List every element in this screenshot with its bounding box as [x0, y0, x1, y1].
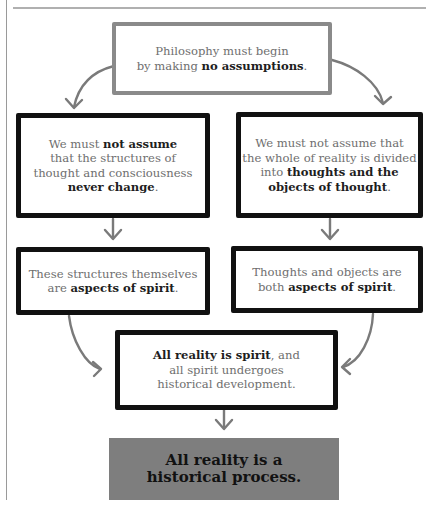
left-claim-emphasis-2: never change	[68, 180, 155, 194]
right-consequence-box: Thoughts and objects are both aspects of…	[231, 246, 423, 313]
synthesis-line-3: historical development.	[153, 377, 300, 392]
premise-emphasis: no assumptions	[202, 59, 304, 73]
left-claim-emphasis-1: not assume	[103, 137, 177, 151]
right-claim-emphasis-2: objects of thought	[268, 180, 387, 194]
synthesis-box: All reality is spirit, and all spirit un…	[115, 330, 338, 410]
right-consequence-line-2: both	[258, 280, 288, 294]
left-consequence-line-2: are	[48, 281, 71, 295]
conclusion-line-2: historical process.	[147, 469, 302, 486]
synthesis-line-2: all spirit undergoes	[153, 363, 300, 378]
right-claim-box: We must not assume that the whole of rea…	[236, 112, 423, 218]
left-consequence-line-1: These structures themselves	[29, 267, 198, 282]
right-claim-line-3: into	[260, 165, 287, 179]
left-consequence-emphasis: aspects of spirit	[71, 281, 175, 295]
synthesis-line-1: , and	[271, 348, 300, 362]
right-claim-emphasis-1: thoughts and the	[287, 165, 399, 179]
curved-arrow-merge-right-icon	[343, 314, 373, 367]
left-claim-line-1: We must	[49, 137, 103, 151]
punct: .	[155, 180, 159, 194]
premise-line-2: by making	[137, 59, 202, 73]
left-claim-line-3: thought and consciousness	[33, 166, 192, 181]
punct: .	[392, 280, 396, 294]
left-consequence-box: These structures themselves are aspects …	[16, 247, 210, 315]
punct: .	[387, 180, 391, 194]
conclusion-line-1: All reality is a	[147, 452, 302, 469]
punct: .	[175, 281, 179, 295]
left-claim-line-2: that the structures of	[33, 151, 192, 166]
conclusion-box: All reality is a historical process.	[109, 438, 339, 500]
synthesis-emphasis: All reality is spirit	[153, 348, 271, 362]
premise-box: Philosophy must begin by making no assum…	[112, 22, 332, 95]
left-claim-box: We must not assume that the structures o…	[16, 113, 210, 218]
right-consequence-emphasis: aspects of spirit	[288, 280, 392, 294]
right-claim-line-1: We must not assume that	[242, 136, 416, 151]
curved-arrow-merge-left-icon	[69, 316, 100, 369]
punct: .	[304, 59, 308, 73]
right-consequence-line-1: Thoughts and objects are	[252, 265, 401, 280]
right-claim-line-2: the whole of reality is divided	[242, 151, 416, 166]
premise-line-1: Philosophy must begin	[155, 44, 288, 58]
